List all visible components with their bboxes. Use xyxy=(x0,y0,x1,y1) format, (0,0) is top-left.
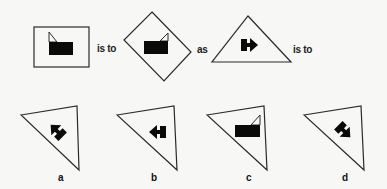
arrow-right-icon xyxy=(241,38,258,52)
arrow-down-right-icon xyxy=(333,120,355,142)
connector-as: as xyxy=(197,44,208,55)
option-label-b: b xyxy=(151,172,157,183)
flag-triangle xyxy=(160,33,168,41)
arrow-block-icon xyxy=(46,120,68,142)
option-triangle xyxy=(304,106,364,170)
connector-is-to-1: is to xyxy=(97,43,116,54)
flag-block-icon xyxy=(235,115,260,137)
option-b[interactable]: b xyxy=(117,106,177,183)
black-block xyxy=(144,41,168,54)
stem-figure-2 xyxy=(124,12,191,81)
puzzle-canvas: is to as is to a xyxy=(0,0,387,189)
black-block xyxy=(235,125,260,137)
option-a[interactable]: a xyxy=(21,106,79,183)
option-label-c: c xyxy=(246,172,252,183)
arrow-left-icon xyxy=(149,125,166,139)
flag-triangle xyxy=(251,115,260,125)
arrow-block-icon xyxy=(149,125,166,139)
option-label-a: a xyxy=(58,172,64,183)
connector-is-to-2: is to xyxy=(293,44,312,55)
option-d[interactable]: d xyxy=(304,106,364,183)
option-c[interactable]: c xyxy=(207,106,267,183)
outer-triangle xyxy=(212,16,291,62)
arrow-block-icon xyxy=(333,120,355,142)
flag-triangle xyxy=(49,32,57,42)
flag-block-icon xyxy=(49,32,73,55)
option-label-d: d xyxy=(342,172,348,183)
option-triangle xyxy=(207,106,267,170)
option-triangle xyxy=(21,106,79,170)
stem-figure-1 xyxy=(34,27,89,67)
arrow-up-left-icon xyxy=(46,120,68,142)
stem-figure-3 xyxy=(212,16,291,62)
analogy-puzzle: is to as is to a xyxy=(0,0,387,189)
black-block xyxy=(49,42,73,55)
arrow-block-icon xyxy=(241,38,258,52)
option-triangle xyxy=(117,106,177,170)
flag-block-icon xyxy=(144,33,168,54)
